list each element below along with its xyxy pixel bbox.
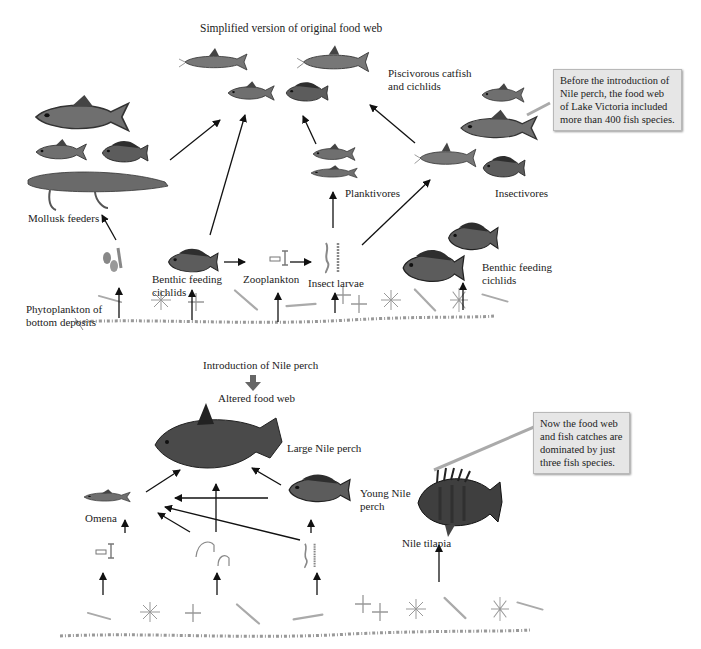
bottom-food-web (60, 403, 555, 636)
insect-larvae-bottom (305, 544, 315, 568)
transition-arrow-icon (245, 375, 261, 391)
piscivore-fish-group (179, 45, 369, 101)
young-nile-perch (289, 474, 350, 501)
label-insectivores: Insectivores (495, 187, 548, 200)
callout-now: Now the food web and fish catches are do… (533, 412, 630, 474)
top-web-title: Simplified version of original food web (200, 22, 382, 35)
omena-fish (84, 489, 130, 502)
benthic-cichlid-left (169, 249, 218, 272)
mollusk-feeder-fish-group (28, 95, 168, 210)
label-insect-larvae: Insect larvae (308, 277, 364, 290)
label-mollusk-feeders: Mollusk feeders (28, 212, 99, 225)
label-nile-tilapia: Nile tilapia (402, 537, 451, 550)
bottom-web-title: Altered food web (218, 392, 295, 405)
top-food-web (28, 45, 550, 330)
mollusks (103, 248, 121, 272)
label-zooplankton: Zooplankton (243, 273, 299, 286)
large-nile-perch (155, 403, 282, 468)
label-large-nile-perch: Large Nile perch (287, 442, 361, 455)
insect-larvae (326, 243, 338, 273)
label-benthic-cichlids-right: Benthic feeding cichlids (482, 261, 552, 287)
label-phytoplankton: Phytoplankton of bottom deposits (26, 303, 102, 329)
label-planktivores: Planktivores (345, 187, 400, 200)
transition-label: Introduction of Nile perch (203, 359, 318, 372)
label-young-nile-perch: Young Nile perch (360, 487, 411, 513)
zooplankton (270, 251, 288, 265)
phytoplankton-top (75, 286, 508, 330)
label-piscivores: Piscivorous catfish and cichlids (388, 67, 471, 93)
zooplankton-bottom (96, 544, 114, 558)
callout-before: Before the introduction of Nile perch, t… (553, 69, 682, 131)
insectivore-fish-group (415, 83, 537, 177)
nile-tilapia (418, 468, 502, 537)
phytoplankton-bottom (60, 595, 543, 636)
label-omena: Omena (85, 512, 117, 525)
shrimp-zooplankton (196, 542, 229, 566)
label-benthic-cichlids-left: Benthic feeding cichlids (152, 273, 222, 299)
planktivore-fish-group (311, 144, 357, 178)
